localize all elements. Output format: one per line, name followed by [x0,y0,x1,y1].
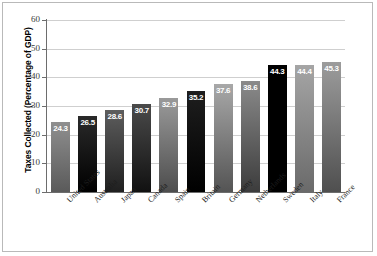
x-axis-line [46,192,345,193]
y-axis-tick-label: 50 [14,43,40,53]
y-axis-tick-label: 30 [14,100,40,110]
gridline [47,20,345,21]
bar-value-label: 38.6 [241,83,260,93]
bar: 30.7 [132,104,151,192]
bar-value-label: 35.2 [187,93,206,103]
bar-value-label: 45.3 [322,64,341,74]
y-axis-tick-label: 0 [14,186,40,196]
bar-value-label: 30.7 [132,106,151,116]
bar-value-label: 24.3 [51,124,70,134]
y-axis-tick [42,135,47,136]
y-axis-tick-labels: 0102030405060 [10,0,40,256]
chart-figure: Taxes Collected (Percentage of GDP) 0102… [0,0,377,256]
y-axis-tick [42,77,47,78]
y-axis-tick [42,163,47,164]
bar-value-label: 44.4 [295,67,314,77]
bar: 35.2 [187,91,206,192]
bar: 44.4 [295,65,314,192]
bar-value-label: 44.3 [268,67,287,77]
bar: 37.6 [214,84,233,192]
y-axis-tick-label: 10 [14,157,40,167]
y-axis-tick [42,20,47,21]
bar-value-label: 32.9 [159,100,178,110]
y-axis-tick [42,106,47,107]
bar: 45.3 [322,62,341,192]
y-axis-tick-label: 60 [14,14,40,24]
bar-value-label: 26.5 [78,118,97,128]
bar: 38.6 [241,81,260,192]
y-axis-tick-label: 40 [14,71,40,81]
bar: 24.3 [51,122,70,192]
y-axis-tick-label: 20 [14,129,40,139]
bar: 32.9 [159,98,178,192]
plot-area: 24.326.528.630.732.935.237.638.644.344.4… [47,20,345,192]
bar-value-label: 28.6 [105,112,124,122]
y-axis-tick [42,192,47,193]
bar-value-label: 37.6 [214,86,233,96]
gridline [47,49,345,50]
y-axis-tick [42,49,47,50]
